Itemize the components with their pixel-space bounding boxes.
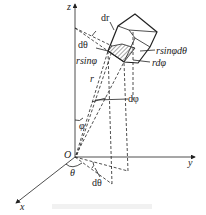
r-label: r: [90, 74, 94, 84]
spherical-volume-element-diagram: z y x O dr dθ rsinφ rsinφdθ rdφ r dφ φ θ…: [0, 0, 206, 215]
y-axis-label: y: [188, 158, 192, 168]
rsinphidtheta-label: rsinφdθ: [156, 46, 187, 56]
phi-label: φ: [79, 121, 85, 131]
diagram-drawing: [0, 0, 206, 215]
faint-caption: [52, 204, 152, 209]
z-axis-label: z: [67, 2, 71, 12]
dtheta-top-label: dθ: [78, 40, 88, 50]
theta-label: θ: [70, 168, 75, 178]
dr-label: dr: [101, 13, 109, 23]
rsinphi-label: rsinφ: [76, 56, 97, 66]
x-axis-label: x: [20, 202, 24, 212]
origin-label: O: [64, 150, 71, 160]
dtheta-bottom-label: dθ: [92, 178, 102, 188]
dphi-label: dφ: [128, 94, 139, 104]
rdphi-label: rdφ: [152, 58, 166, 68]
